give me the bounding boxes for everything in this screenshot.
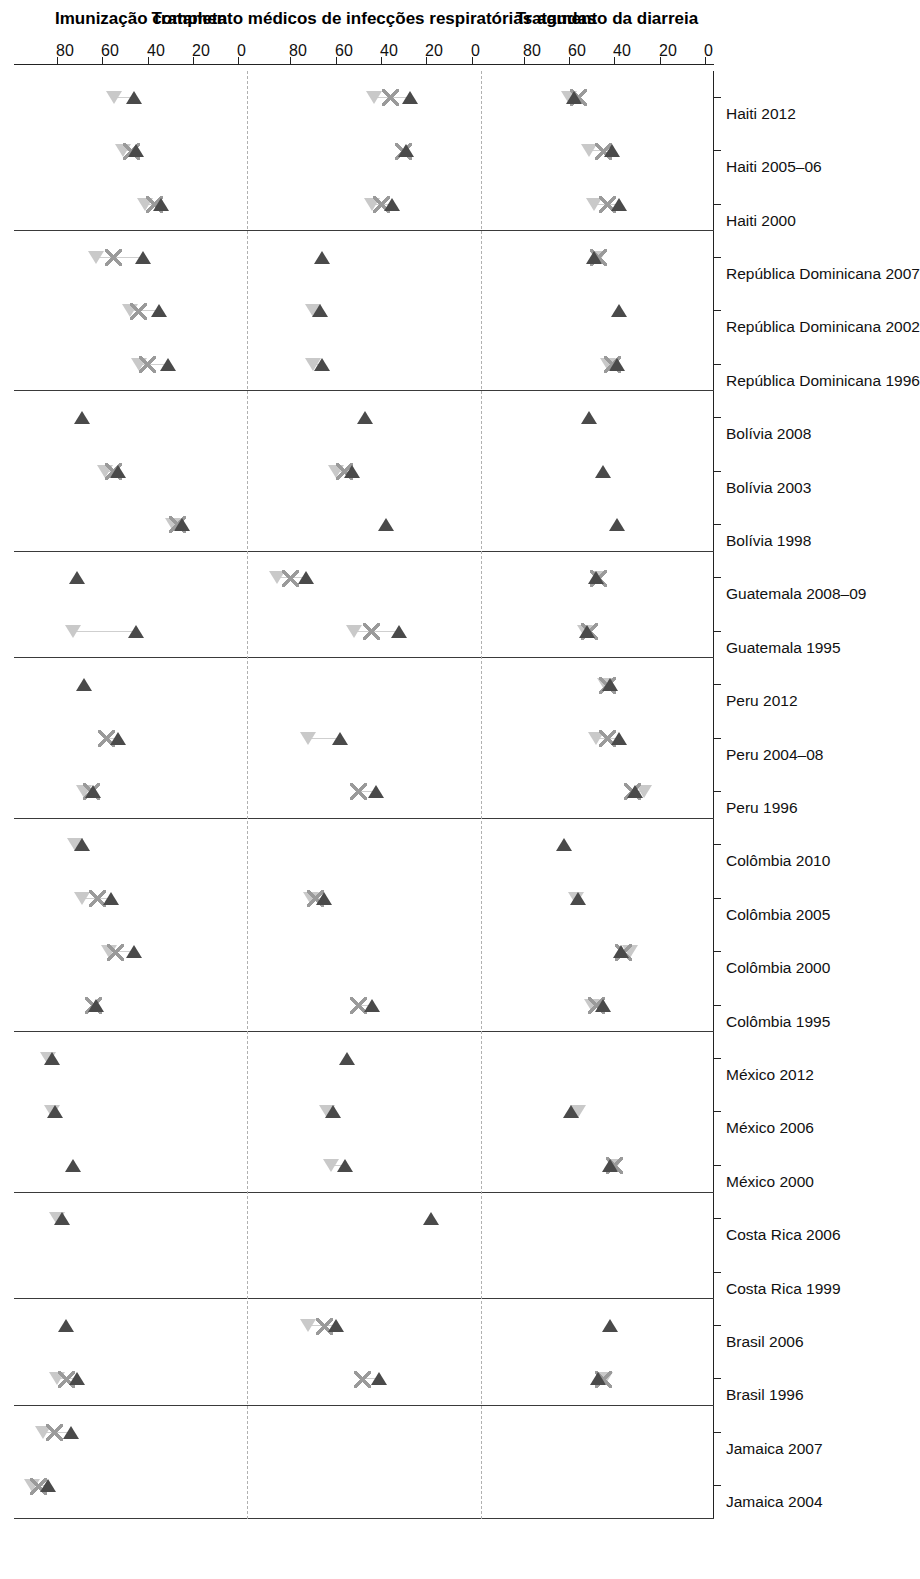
marker-poorest-40 — [609, 358, 625, 371]
group-separator — [14, 551, 714, 552]
category-axis-tick — [714, 1378, 721, 1379]
marker-poorest-40 — [566, 91, 582, 104]
marker-poorest-40 — [595, 999, 611, 1012]
group-separator — [14, 1518, 714, 1519]
group-separator — [14, 1031, 714, 1032]
category-axis-tick — [714, 738, 721, 739]
category-label: Costa Rica 2006 — [726, 1226, 841, 1244]
value-axis-tick-label: 80 — [56, 42, 74, 60]
value-axis-tick-label: 80 — [523, 42, 541, 60]
category-label: Colômbia 2010 — [726, 852, 830, 870]
marker-poorest-40 — [153, 198, 169, 211]
marker-poorest-40 — [368, 785, 384, 798]
marker-richest-60 — [106, 91, 122, 104]
marker-poorest-40 — [611, 732, 627, 745]
category-label: Peru 2004–08 — [726, 746, 823, 764]
category-label: República Dominicana 1996 — [726, 372, 920, 390]
marker-poorest-40 — [581, 411, 597, 424]
marker-mean — [354, 1371, 371, 1388]
category-label: México 2000 — [726, 1173, 814, 1191]
category-axis-tick — [714, 951, 721, 952]
marker-poorest-40 — [337, 1159, 353, 1172]
marker-poorest-40 — [588, 571, 604, 584]
marker-poorest-40 — [604, 144, 620, 157]
marker-poorest-40 — [110, 732, 126, 745]
marker-poorest-40 — [65, 1159, 81, 1172]
category-axis-tick — [714, 1005, 721, 1006]
category-axis-tick — [714, 1432, 721, 1433]
marker-poorest-40 — [570, 892, 586, 905]
marker-poorest-40 — [595, 465, 611, 478]
marker-mean — [363, 623, 380, 640]
marker-poorest-40 — [74, 838, 90, 851]
value-axis-tick-label: 0 — [704, 42, 713, 60]
category-axis-tick — [714, 150, 721, 151]
marker-poorest-40 — [69, 1372, 85, 1385]
value-axis-tick-label: 20 — [425, 42, 443, 60]
marker-richest-60 — [88, 251, 104, 264]
category-axis-tick — [714, 844, 721, 845]
value-axis-tick-label: 60 — [101, 42, 119, 60]
category-axis-tick — [714, 97, 721, 98]
marker-mean — [282, 570, 299, 587]
marker-poorest-40 — [344, 465, 360, 478]
panel-title: Tratamento da diarreia — [516, 9, 698, 29]
category-axis-tick — [714, 684, 721, 685]
value-axis-tick-label: 80 — [289, 42, 307, 60]
marker-poorest-40 — [556, 838, 572, 851]
panel-divider — [247, 71, 248, 1519]
value-axis-tick-label: 0 — [237, 42, 246, 60]
marker-poorest-40 — [339, 1052, 355, 1065]
marker-poorest-40 — [40, 1479, 56, 1492]
category-axis-tick — [714, 577, 721, 578]
marker-poorest-40 — [63, 1426, 79, 1439]
marker-richest-60 — [366, 91, 382, 104]
group-separator — [14, 1298, 714, 1299]
marker-poorest-40 — [160, 358, 176, 371]
marker-poorest-40 — [611, 304, 627, 317]
marker-poorest-40 — [391, 625, 407, 638]
category-axis-tick — [714, 471, 721, 472]
marker-poorest-40 — [579, 625, 595, 638]
marker-poorest-40 — [47, 1105, 63, 1118]
plot-area — [14, 71, 714, 1519]
marker-poorest-40 — [44, 1052, 60, 1065]
range-connector — [73, 631, 136, 632]
category-label: Colômbia 1995 — [726, 1013, 830, 1031]
marker-richest-60 — [65, 625, 81, 638]
marker-poorest-40 — [357, 411, 373, 424]
marker-poorest-40 — [627, 785, 643, 798]
category-label: Peru 1996 — [726, 799, 798, 817]
marker-poorest-40 — [328, 1319, 344, 1332]
marker-mean — [107, 944, 124, 961]
marker-poorest-40 — [314, 358, 330, 371]
category-label: Brasil 2006 — [726, 1333, 804, 1351]
marker-poorest-40 — [74, 411, 90, 424]
category-axis-tick — [714, 1325, 721, 1326]
category-axis-tick — [714, 204, 721, 205]
category-label: Jamaica 2007 — [726, 1440, 823, 1458]
marker-poorest-40 — [69, 571, 85, 584]
category-axis-tick — [714, 1058, 721, 1059]
category-label: Bolívia 2008 — [726, 425, 811, 443]
marker-poorest-40 — [586, 251, 602, 264]
marker-poorest-40 — [128, 625, 144, 638]
marker-poorest-40 — [609, 518, 625, 531]
marker-mean — [350, 784, 367, 801]
category-axis-line — [713, 71, 714, 1519]
marker-poorest-40 — [314, 251, 330, 264]
category-label: República Dominicana 2007 — [726, 265, 920, 283]
category-axis-tick — [714, 791, 721, 792]
marker-poorest-40 — [384, 198, 400, 211]
category-label: Colômbia 2005 — [726, 906, 830, 924]
marker-mean — [105, 249, 122, 266]
marker-poorest-40 — [613, 945, 629, 958]
category-axis-tick — [714, 1272, 721, 1273]
category-label: México 2006 — [726, 1119, 814, 1137]
marker-mean — [130, 303, 147, 320]
panel-divider — [481, 71, 482, 1519]
marker-poorest-40 — [611, 198, 627, 211]
marker-poorest-40 — [174, 518, 190, 531]
value-axis-tick-label: 40 — [147, 42, 165, 60]
